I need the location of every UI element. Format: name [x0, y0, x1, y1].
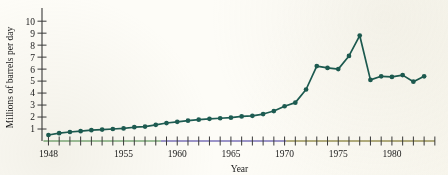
- y-tick-label-4: 4: [30, 88, 35, 98]
- y-axis-title: Millions of barrels per day: [5, 27, 15, 129]
- data-point-1949: [57, 131, 62, 136]
- data-point-1974: [325, 66, 330, 71]
- data-point-1964: [218, 116, 223, 121]
- data-point-1953: [100, 127, 105, 132]
- y-tick-label-5: 5: [30, 76, 35, 86]
- y-tick-label-2: 2: [30, 112, 35, 122]
- x-tick-label-1955: 1955: [114, 149, 133, 159]
- data-point-1950: [68, 130, 73, 135]
- data-point-1971: [293, 100, 298, 105]
- x-tick-label-1970: 1970: [275, 149, 294, 159]
- y-tick-label-7: 7: [30, 53, 35, 63]
- data-point-1982: [411, 79, 416, 84]
- data-point-1981: [400, 73, 405, 78]
- data-point-1957: [143, 124, 148, 129]
- data-point-1975: [336, 67, 341, 72]
- data-point-1963: [207, 116, 212, 121]
- line-chart: 123456789101948195519601965197019751980Y…: [0, 0, 448, 175]
- data-point-1980: [390, 75, 395, 80]
- data-point-1969: [272, 109, 277, 114]
- data-point-1956: [132, 125, 137, 130]
- data-point-1979: [379, 74, 384, 79]
- data-point-1958: [153, 122, 158, 127]
- data-point-1965: [229, 115, 234, 120]
- y-tick-label-9: 9: [30, 29, 35, 39]
- data-point-1968: [261, 112, 266, 117]
- x-tick-label-1980: 1980: [382, 149, 401, 159]
- data-point-1970: [282, 104, 287, 109]
- data-point-1972: [304, 87, 309, 92]
- x-tick-label-1975: 1975: [329, 149, 348, 159]
- data-point-1951: [78, 129, 83, 134]
- x-tick-label-1965: 1965: [221, 149, 240, 159]
- y-tick-label-3: 3: [30, 100, 35, 110]
- data-point-1960: [175, 119, 180, 124]
- data-point-1977: [357, 33, 362, 38]
- data-point-1952: [89, 128, 94, 133]
- data-point-1948: [46, 133, 51, 138]
- y-tick-label-1: 1: [30, 124, 35, 134]
- y-tick-label-10: 10: [26, 17, 36, 27]
- data-point-1954: [110, 127, 115, 132]
- y-tick-label-6: 6: [30, 65, 35, 75]
- data-point-1959: [164, 121, 169, 126]
- x-axis-title: Year: [231, 164, 249, 174]
- data-point-1955: [121, 126, 126, 131]
- data-point-1962: [196, 117, 201, 122]
- data-point-1966: [239, 114, 244, 119]
- data-point-1976: [347, 54, 352, 59]
- data-point-1978: [368, 78, 373, 83]
- data-point-1967: [250, 113, 255, 118]
- data-point-1961: [186, 118, 191, 123]
- y-tick-label-8: 8: [30, 41, 35, 51]
- x-tick-label-1948: 1948: [39, 149, 58, 159]
- data-point-1983: [422, 74, 427, 79]
- data-point-1973: [314, 64, 319, 69]
- x-tick-label-1960: 1960: [168, 149, 187, 159]
